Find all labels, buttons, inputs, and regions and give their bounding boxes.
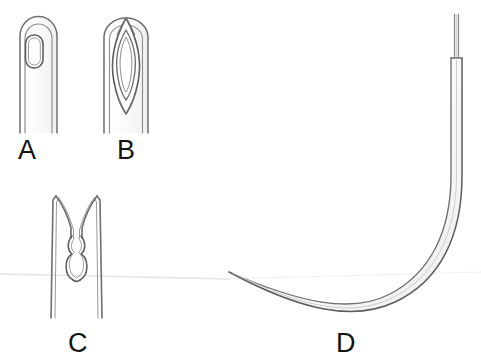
scan-artifact-line: [0, 274, 230, 279]
panel-label-a: A: [18, 137, 36, 164]
needle-illustrations: [0, 0, 481, 361]
needle-a-eye-inner: [29, 38, 41, 65]
needle-c-eye-bottom: [73, 280, 80, 282]
needle-c-right-inner: [94, 198, 98, 318]
needle-c-spring-right-inner: [78, 238, 84, 277]
panel-label-d: D: [336, 330, 356, 357]
panel-label-c: C: [68, 330, 88, 357]
needle-c-left-inner: [55, 198, 59, 318]
needle-a: [20, 17, 57, 134]
needle-c-eye-bottom-inner: [75, 277, 78, 278]
scan-artifact-line-right: [225, 272, 481, 279]
needle-b: [104, 18, 148, 133]
needle-c: [51, 196, 102, 318]
needle-c-spring-left-inner: [69, 238, 75, 277]
needle-types-figure: A B C D: [0, 0, 481, 361]
panel-label-b: B: [117, 137, 135, 164]
needle-d: [229, 14, 462, 312]
needle-d-inner-edge: [229, 58, 451, 304]
needle-d-body-fill: [229, 58, 462, 312]
